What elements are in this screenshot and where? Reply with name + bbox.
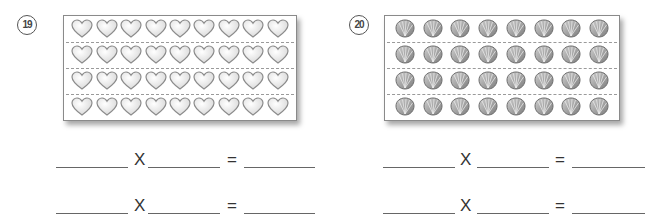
shell-icon (560, 97, 582, 117)
shell-icon (394, 97, 416, 117)
shell-icon (588, 71, 610, 91)
shell-icon (394, 19, 416, 39)
shell-icon (588, 19, 610, 39)
row-divider (387, 94, 617, 95)
shell-icon (449, 97, 471, 117)
problem-number: 20 (349, 15, 369, 35)
shell-icon (477, 97, 499, 117)
shell-icon (505, 97, 527, 117)
shell-icon (588, 45, 610, 65)
shell-icon (533, 71, 555, 91)
factor-2-blank[interactable] (477, 167, 549, 168)
problem-20: 20 X = X = (0, 0, 659, 222)
shell-icon (533, 19, 555, 39)
shell-icon (505, 71, 527, 91)
shell-icon (422, 71, 444, 91)
shell-icon (533, 97, 555, 117)
factor-1-blank[interactable] (383, 213, 455, 214)
shell-icon (560, 19, 582, 39)
shell-icon (560, 71, 582, 91)
array-row (385, 16, 619, 42)
shells-array-box (384, 15, 620, 121)
shell-icon (394, 71, 416, 91)
product-blank[interactable] (572, 213, 645, 214)
shell-icon (449, 19, 471, 39)
equals-sign: = (555, 150, 565, 170)
shell-icon (394, 45, 416, 65)
equation-row-1: X = (327, 152, 657, 172)
shell-icon (477, 45, 499, 65)
shell-icon (560, 45, 582, 65)
product-blank[interactable] (572, 167, 645, 168)
shell-icon (588, 97, 610, 117)
equation-row-2: X = (327, 198, 657, 218)
shell-icon (422, 45, 444, 65)
multiply-sign: X (460, 196, 471, 216)
array-row (385, 42, 619, 68)
array-row (385, 94, 619, 120)
row-divider (387, 42, 617, 43)
shell-icon (505, 19, 527, 39)
shell-icon (422, 19, 444, 39)
equals-sign: = (555, 196, 565, 216)
shell-icon (505, 45, 527, 65)
shell-icon (449, 71, 471, 91)
array-row (385, 68, 619, 94)
shell-icon (533, 45, 555, 65)
shell-icon (477, 19, 499, 39)
shell-icon (449, 45, 471, 65)
factor-2-blank[interactable] (477, 213, 549, 214)
shell-icon (477, 71, 499, 91)
factor-1-blank[interactable] (383, 167, 455, 168)
multiply-sign: X (460, 150, 471, 170)
shell-icon (422, 97, 444, 117)
row-divider (387, 68, 617, 69)
